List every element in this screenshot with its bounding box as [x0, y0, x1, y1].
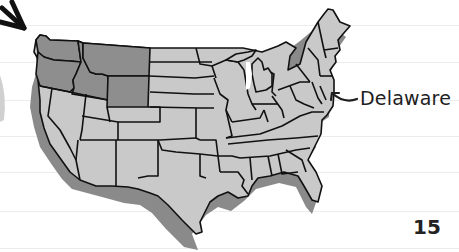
- side-shadow-shape: [0, 75, 5, 122]
- state-montana: [83, 43, 150, 76]
- arrow-pointing-down-right-icon: [0, 2, 24, 28]
- page-number: 15: [413, 215, 441, 239]
- delaware-callout-arrow-icon: [331, 93, 357, 101]
- delaware-label: Delaware: [360, 87, 451, 109]
- us-map: [0, 0, 459, 252]
- state-wyoming: [107, 76, 149, 107]
